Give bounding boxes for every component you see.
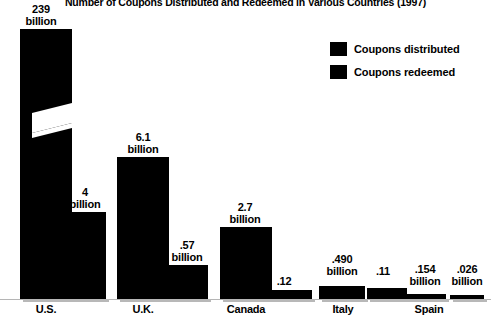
category-label-canada: Canada bbox=[216, 303, 276, 315]
value-label-canada-redeemed: .12 bbox=[262, 275, 306, 287]
value-label-canada-distributed: 2.7 billion bbox=[214, 201, 276, 225]
bar-shadow-uk-redeemed bbox=[169, 299, 211, 302]
bar-shadow-canada-redeemed bbox=[273, 299, 315, 302]
value-label-uk-distributed: 6.1 billion bbox=[112, 131, 174, 155]
bar-shadow-italy-redeemed bbox=[370, 299, 410, 302]
bar-shadow-spain-distributed bbox=[409, 299, 449, 302]
bar-us-redeemed bbox=[64, 212, 106, 299]
group-us: 239 billion 4 billion U.S. bbox=[10, 9, 120, 299]
bar-canada-distributed bbox=[220, 227, 272, 299]
bar-italy-distributed bbox=[319, 286, 365, 299]
plot-area: 239 billion 4 billion U.S. 6.1 billion bbox=[0, 0, 491, 317]
bar-shadow-us-redeemed bbox=[67, 299, 109, 302]
bar-uk-distributed bbox=[117, 157, 169, 299]
bar-uk-redeemed bbox=[166, 265, 208, 299]
category-label-italy: Italy bbox=[319, 303, 367, 315]
group-uk: 6.1 billion .57 billion U.K. bbox=[108, 119, 218, 299]
category-label-us: U.S. bbox=[20, 303, 72, 315]
bar-shadow-uk-distributed bbox=[120, 299, 172, 302]
category-label-spain: Spain bbox=[404, 303, 454, 315]
bar-shadow-canada-distributed bbox=[223, 299, 275, 302]
value-label-spain-distributed: .154 billion bbox=[400, 263, 450, 287]
value-label-us-distributed: 239 billion bbox=[10, 3, 72, 27]
group-canada: 2.7 billion .12 Canada bbox=[206, 189, 316, 299]
bar-shadow-spain-redeemed bbox=[453, 299, 487, 302]
value-label-us-redeemed: 4 billion bbox=[54, 186, 116, 210]
value-label-spain-redeemed: .026 billion bbox=[444, 263, 490, 287]
coupon-bar-chart: Number of Coupons Distributed and Redeem… bbox=[0, 0, 491, 317]
bar-shadow-italy-distributed bbox=[322, 299, 368, 302]
group-spain: .154 billion .026 billion Spain bbox=[396, 249, 491, 299]
category-label-uk: U.K. bbox=[117, 303, 169, 315]
